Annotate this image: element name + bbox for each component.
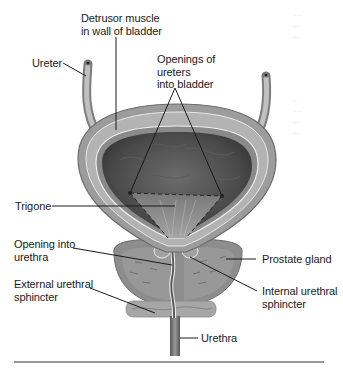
label-trigone: Trigone xyxy=(15,200,51,213)
bleed-through-text: ∙∙∙∙ ∙∙∙ ∙∙∙ xyxy=(292,10,301,43)
label-detrusor-muscle: Detrusor muscle in wall of bladder xyxy=(81,12,162,37)
label-external-urethral-sphincter: External urethral sphincter xyxy=(14,278,93,303)
external-urethral-sphincter xyxy=(126,301,216,317)
bladder xyxy=(78,104,276,252)
label-ureter: Ureter xyxy=(32,57,62,70)
label-prostate-gland: Prostate gland xyxy=(262,253,332,266)
label-openings-of-ureters: Openings of ureters into bladder xyxy=(157,53,215,91)
label-opening-into-urethra: Opening into urethra xyxy=(14,238,75,263)
bleed-through-text: ∙∙∙ ∙∙∙∙ ∙∙∙ ∙∙∙ xyxy=(292,95,301,139)
bladder-diagram: Detrusor muscle in wall of bladder Urete… xyxy=(0,0,343,369)
label-urethra: Urethra xyxy=(201,332,237,345)
label-internal-urethral-sphincter: Internal urethral sphincter xyxy=(262,285,337,310)
